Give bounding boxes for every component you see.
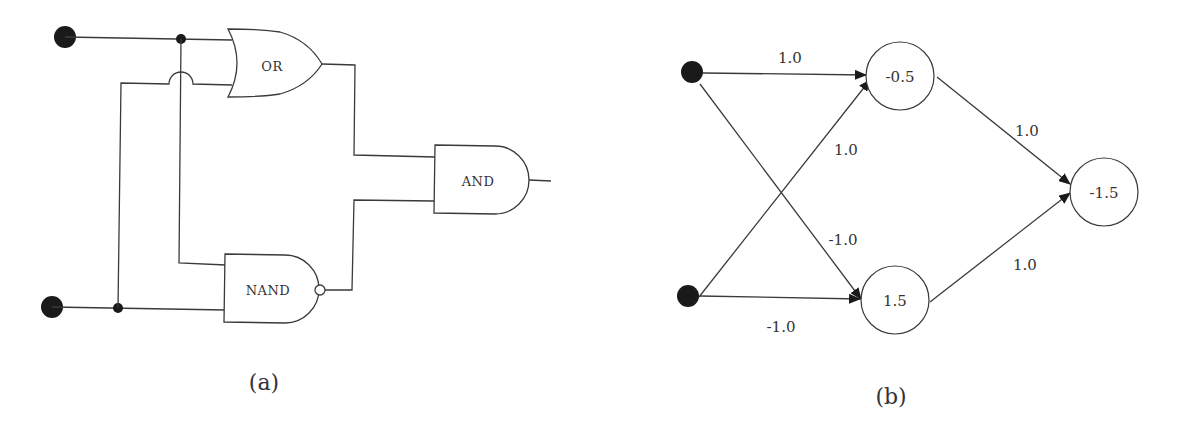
edge-in1-top [703, 73, 866, 75]
caption-a: (a) [249, 370, 279, 395]
weight-in1-top: 1.0 [778, 49, 802, 67]
input-node-1 [681, 61, 703, 83]
nand-gate-label: NAND [246, 283, 291, 298]
weight-bottom-out: 1.0 [1013, 256, 1037, 274]
wire-and-output [529, 180, 551, 181]
nand-inversion-bubble [315, 285, 325, 295]
edge-in2-top [699, 80, 870, 297]
neural-network: -0.5 1.5 -1.5 1.0 1.0 -1.0 -1.0 1.0 1.0 … [677, 42, 1138, 409]
wire-in2-nand [52, 307, 226, 310]
weight-in1-bottom: -1.0 [829, 231, 858, 249]
weight-in2-top: 1.0 [834, 141, 858, 159]
wire-in2-or [118, 72, 232, 308]
and-gate-label: AND [461, 174, 495, 189]
edge-in1-bottom [700, 84, 861, 299]
weight-in2-bottom: -1.0 [767, 318, 796, 336]
caption-b: (b) [875, 384, 906, 409]
output-node-label: -1.5 [1090, 184, 1119, 202]
diagram-canvas: OR AND NAND (a) -0.5 1.5 [0, 0, 1182, 441]
wire-in1-or [65, 37, 232, 40]
logic-circuit: OR AND NAND (a) [41, 26, 551, 395]
or-gate-label: OR [261, 59, 283, 74]
input-node-2 [677, 285, 699, 307]
wire-or-and [322, 64, 435, 157]
hidden-node-top-label: -0.5 [886, 68, 915, 86]
wire-nand-and [325, 200, 434, 290]
edge-bottom-out [930, 193, 1070, 302]
edge-in2-bottom [700, 296, 860, 299]
weight-top-out: 1.0 [1015, 122, 1039, 140]
edge-top-out [937, 77, 1070, 184]
hidden-node-bottom-label: 1.5 [883, 292, 907, 310]
